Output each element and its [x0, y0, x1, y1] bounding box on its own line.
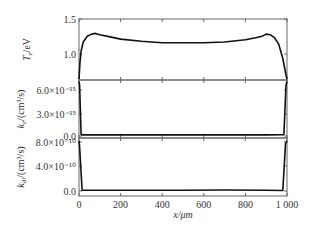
x-tick-label: 600 [196, 199, 211, 210]
x-tick-label: 200 [113, 199, 128, 210]
y-tick-label: 1.0 [64, 49, 77, 60]
panel-frame [79, 80, 287, 138]
y-tick-label: 8.0×10⁻¹⁰ [36, 137, 76, 148]
y-tick-labels: 1.51.06.0×10⁻¹⁵3.0×10⁻¹⁵0.08.0×10⁻¹⁰4.0×… [36, 14, 76, 197]
y-axis-label: Te/eV [21, 37, 34, 61]
y-tick-label: 3.0×10⁻¹⁵ [36, 109, 76, 120]
series-line-kdi [79, 141, 287, 191]
data-curves [79, 33, 287, 190]
x-tick-label: 1 000 [276, 199, 299, 210]
x-tick-label: 800 [238, 199, 253, 210]
panel-frame [79, 138, 287, 196]
y-axis-label: ke/(cm³/s) [15, 90, 28, 129]
y-tick-label: 1.5 [64, 14, 77, 25]
y-axis-labels: Te/eVke/(cm³/s)kdi/(cm³/s) [15, 37, 34, 187]
panel-frame [79, 19, 287, 80]
y-tick-label: 0.0 [64, 186, 77, 197]
panel-frames [79, 19, 287, 196]
x-axis-label: x/μm [172, 209, 192, 220]
series-line-ke [79, 82, 287, 135]
y-tick-label: 6.0×10⁻¹⁵ [36, 85, 76, 96]
y-axis-label: kdi/(cm³/s) [15, 146, 28, 187]
x-tick-label: 400 [155, 199, 170, 210]
y-tick-label: 4.0×10⁻¹⁰ [36, 161, 76, 172]
stacked-line-chart: 1.51.06.0×10⁻¹⁵3.0×10⁻¹⁵0.08.0×10⁻¹⁰4.0×… [0, 0, 319, 236]
series-line-Te [79, 33, 287, 79]
x-tick-label: 0 [77, 199, 82, 210]
